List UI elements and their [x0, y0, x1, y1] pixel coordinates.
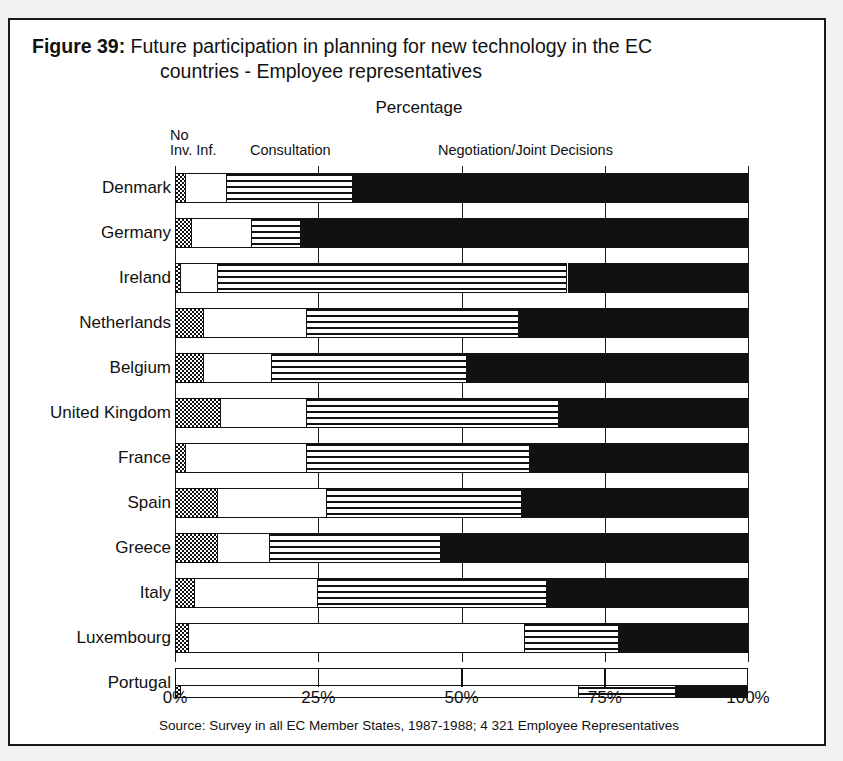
- bar-segment-consultation: [318, 578, 547, 608]
- x-axis-tick: [604, 669, 606, 687]
- bar-category-label: Luxembourg: [0, 623, 171, 653]
- bar-row: Belgium: [175, 353, 748, 383]
- x-axis-tick-label: 100%: [726, 688, 769, 708]
- bar-row: Denmark: [175, 173, 748, 203]
- x-axis-tick-label: 50%: [444, 688, 478, 708]
- bar-segment-inv-inf: [186, 173, 226, 203]
- bar-category-label: Greece: [0, 533, 171, 563]
- x-axis-tick-label: 25%: [301, 688, 335, 708]
- bar-segment-inv-inf: [181, 263, 218, 293]
- bar-segment-consultation: [307, 308, 519, 338]
- figure-title-line-2: countries - Employee representatives: [10, 59, 828, 84]
- bar-segment-consultation: [252, 218, 301, 248]
- bar-segment-negotiation-joint-decisions: [619, 623, 748, 653]
- bar-segment-no: [175, 398, 221, 428]
- bar-row: Spain: [175, 488, 748, 518]
- bar-segment-negotiation-joint-decisions: [467, 353, 748, 383]
- bar-segment-consultation: [218, 263, 568, 293]
- bar-segment-negotiation-joint-decisions: [441, 533, 748, 563]
- gridline: [748, 166, 749, 662]
- bar-segment-no: [175, 308, 204, 338]
- bar-row: Ireland: [175, 263, 748, 293]
- bar-row: Germany: [175, 218, 748, 248]
- figure-number-label: Figure 39:: [32, 35, 125, 57]
- figure-title-block: Figure 39: Future participation in plann…: [10, 34, 828, 84]
- bar-row: Luxembourg: [175, 623, 748, 653]
- bar-segment-no: [175, 488, 218, 518]
- bar-segment-consultation: [327, 488, 522, 518]
- bar-segment-negotiation-joint-decisions: [530, 443, 748, 473]
- legend-label-inv-inf: Inv. Inf.: [170, 143, 216, 158]
- bar-category-label: United Kingdom: [0, 398, 171, 428]
- bar-segment-consultation: [307, 398, 559, 428]
- figure-title-text-1: Future participation in planning for new…: [131, 35, 652, 57]
- bar-category-label: Netherlands: [0, 308, 171, 338]
- bar-category-label: Germany: [0, 218, 171, 248]
- legend-item-no-inv-inf: No Inv. Inf.: [170, 128, 216, 158]
- bar-segment-inv-inf: [189, 623, 524, 653]
- bar-category-label: Italy: [0, 578, 171, 608]
- bar-segment-negotiation-joint-decisions: [522, 488, 748, 518]
- bar-segment-no: [175, 578, 195, 608]
- figure-frame: Figure 39: Future participation in plann…: [8, 18, 826, 746]
- bar-segment-negotiation-joint-decisions: [353, 173, 748, 203]
- legend-item-negotiation: Negotiation/Joint Decisions: [438, 143, 613, 158]
- chart-legend: No Inv. Inf. Consultation Negotiation/Jo…: [10, 128, 828, 164]
- legend-item-consultation: Consultation: [250, 143, 331, 158]
- figure-title-line-1: Figure 39: Future participation in plann…: [10, 34, 828, 59]
- bar-segment-consultation: [272, 353, 467, 383]
- bar-row: Italy: [175, 578, 748, 608]
- bar-segment-inv-inf: [204, 308, 307, 338]
- bar-category-label: Ireland: [0, 263, 171, 293]
- bar-segment-no: [175, 443, 186, 473]
- chart-plot-area: DenmarkGermanyIrelandNetherlandsBelgiumU…: [175, 166, 748, 662]
- x-axis-tick: [461, 669, 463, 687]
- bar-category-label: France: [0, 443, 171, 473]
- bar-segment-inv-inf: [195, 578, 318, 608]
- figure-source-note: Source: Survey in all EC Member States, …: [10, 718, 828, 733]
- bar-segment-inv-inf: [204, 353, 273, 383]
- bar-segment-no: [175, 353, 204, 383]
- bar-segment-no: [175, 173, 186, 203]
- x-axis-tick: [318, 669, 320, 687]
- bar-segment-negotiation-joint-decisions: [547, 578, 748, 608]
- chart-axis-title: Percentage: [10, 98, 828, 118]
- x-axis-tick-label: 0%: [163, 688, 188, 708]
- bar-segment-inv-inf: [192, 218, 252, 248]
- bar-row: France: [175, 443, 748, 473]
- bar-segment-no: [175, 218, 192, 248]
- bar-segment-consultation: [270, 533, 442, 563]
- bar-segment-inv-inf: [186, 443, 306, 473]
- bar-segment-no: [175, 533, 218, 563]
- bar-category-label: Denmark: [0, 173, 171, 203]
- bar-segment-consultation: [227, 173, 353, 203]
- bar-segment-negotiation-joint-decisions: [519, 308, 748, 338]
- x-axis-tick-label: 75%: [588, 688, 622, 708]
- bar-segment-no: [175, 623, 189, 653]
- bar-row: Greece: [175, 533, 748, 563]
- bar-row: United Kingdom: [175, 398, 748, 428]
- bar-category-label: Belgium: [0, 353, 171, 383]
- bar-segment-consultation: [525, 623, 620, 653]
- bar-segment-consultation: [307, 443, 530, 473]
- bar-segment-inv-inf: [221, 398, 307, 428]
- bar-segment-inv-inf: [218, 488, 327, 518]
- bar-segment-inv-inf: [218, 533, 270, 563]
- legend-label-no: No: [170, 128, 216, 143]
- bar-segment-negotiation-joint-decisions: [301, 218, 748, 248]
- bar-category-label: Spain: [0, 488, 171, 518]
- bar-segment-negotiation-joint-decisions: [559, 398, 748, 428]
- x-axis-tick-labels: 0%25%50%75%100%: [10, 688, 828, 712]
- bar-segment-negotiation-joint-decisions: [568, 263, 748, 293]
- x-axis: [175, 668, 748, 686]
- bar-row: Netherlands: [175, 308, 748, 338]
